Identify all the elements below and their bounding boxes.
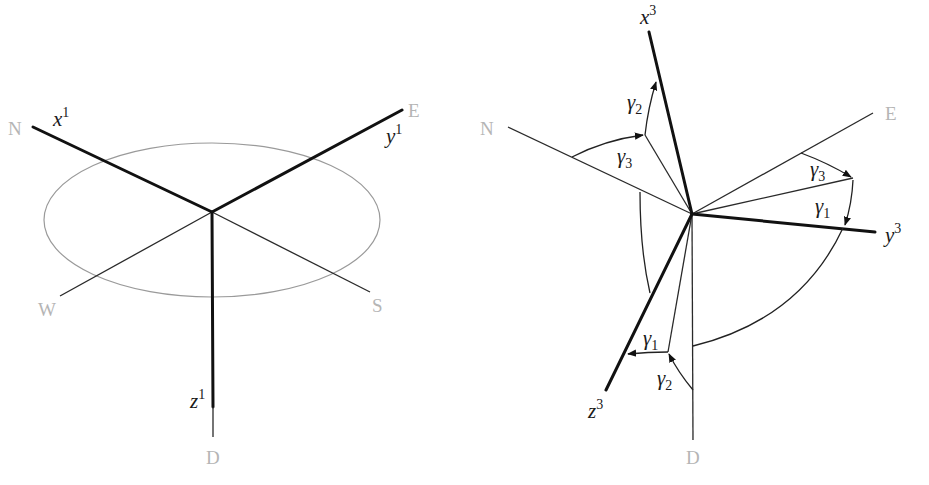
down-axis-line [692, 214, 693, 440]
gamma3-label-east: γ3 [810, 157, 825, 184]
east-axis-line [692, 113, 873, 214]
intermediate-x-line [645, 135, 692, 214]
east-label: E [408, 100, 420, 121]
gamma3-arc-north [572, 135, 643, 157]
z3-axis-line [606, 214, 692, 390]
z1-label: z1 [189, 387, 205, 413]
x1-label: x1 [52, 105, 69, 131]
x3-axis-line [649, 32, 692, 214]
west-label: W [38, 299, 56, 320]
gamma3-arc-east [801, 153, 851, 177]
gamma1-label-east: γ1 [815, 194, 830, 221]
intermediate-z-line [668, 214, 692, 352]
north-label: N [8, 118, 22, 139]
gamma2-arc-top [645, 82, 656, 135]
north-axis-line [508, 127, 692, 214]
south-axis-line [212, 212, 370, 292]
x1-axis-line [33, 127, 212, 212]
right-frame-diagram: N E D x3 y3 z3 γ2 γ3 γ3 γ1 γ1 γ2 [480, 3, 901, 468]
down-label: D [206, 447, 220, 468]
gamma2-arc-bottom [669, 354, 693, 390]
z1-axis-line [212, 212, 213, 407]
rotation-diagram: N E W S D x1 y1 z1 [0, 0, 929, 485]
y1-label: y1 [384, 122, 402, 148]
large-arc-y3-to-down [693, 228, 843, 346]
gamma2-label-bottom: γ2 [657, 366, 672, 393]
gamma3-label-north: γ3 [617, 144, 632, 171]
north-label: N [480, 118, 494, 139]
z3-label: z3 [587, 397, 603, 423]
down-label: D [686, 447, 700, 468]
gamma1-label-bottom: γ1 [643, 326, 658, 353]
left-frame-diagram: N E W S D x1 y1 z1 [8, 100, 420, 468]
gamma1-arc-bottom [628, 352, 668, 354]
gamma2-label-top: γ2 [627, 90, 642, 117]
x3-label: x3 [639, 3, 656, 29]
y3-label: y3 [883, 221, 901, 247]
y1-axis-line [212, 110, 402, 212]
south-label: S [372, 295, 383, 316]
west-axis-line [60, 212, 212, 296]
east-label: E [885, 103, 897, 124]
left-arc-north-to-z3 [640, 192, 650, 293]
gamma1-arc-east [845, 180, 853, 225]
